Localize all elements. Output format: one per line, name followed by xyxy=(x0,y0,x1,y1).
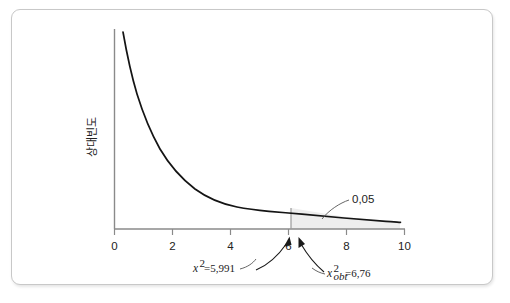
figure-root: 0 2 4 6 8 10 상대빈도 0,05 x 2 =5 xyxy=(0,0,510,303)
critical-value-arrow-curve xyxy=(256,243,287,270)
critical-value-symbol: x xyxy=(192,262,199,274)
x-tick-label-4: 4 xyxy=(227,240,234,252)
critical-value-annotation-leader xyxy=(240,259,256,269)
y-axis-label: 상대빈도 xyxy=(86,117,99,157)
annotation-critical-value: x 2 =5,991 xyxy=(192,257,256,275)
critical-value-equals: =5,991 xyxy=(204,262,235,274)
alpha-area-label: 0,05 xyxy=(352,193,374,205)
x-tick-label-10: 10 xyxy=(398,240,411,252)
chi-square-plot: 0 2 4 6 8 10 상대빈도 0,05 x 2 =5 xyxy=(0,0,510,303)
x-axis-tick-labels: 0 2 4 6 8 10 xyxy=(111,240,411,252)
annotation-obtained-value: x 2 obt =6,76 xyxy=(312,262,371,283)
obtained-value-arrow xyxy=(299,237,325,272)
x-tick-label-8: 8 xyxy=(343,240,349,252)
x-axis-ticks xyxy=(115,229,405,235)
obtained-value-equals: =6,76 xyxy=(345,267,371,279)
x-tick-label-2: 2 xyxy=(169,240,175,252)
obtained-value-symbol: x xyxy=(326,267,333,279)
obtained-value-arrowhead xyxy=(299,237,306,248)
obtained-value-arrow-curve xyxy=(301,244,324,272)
x-tick-label-0: 0 xyxy=(111,240,117,252)
